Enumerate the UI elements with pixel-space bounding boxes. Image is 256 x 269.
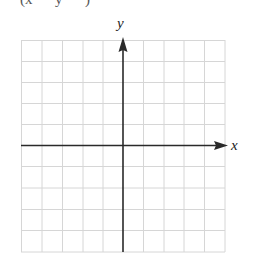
x-axis-arrow-icon <box>214 141 228 150</box>
x-axis-label: x <box>230 137 238 153</box>
y-axis-label: y <box>115 15 124 31</box>
y-axis <box>119 37 128 252</box>
y-axis-arrow-icon <box>119 37 128 52</box>
x-axis <box>21 141 228 150</box>
coordinate-plane: y x <box>0 0 256 269</box>
